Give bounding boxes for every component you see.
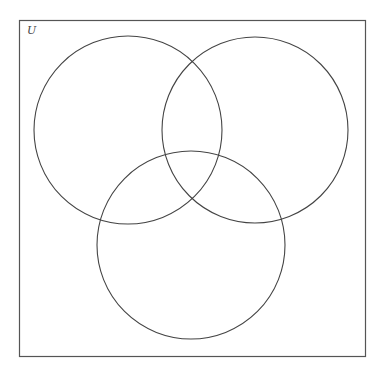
set-a-circle xyxy=(34,36,222,224)
set-c-circle xyxy=(97,151,285,339)
venn-diagram xyxy=(0,0,388,373)
set-b-circle xyxy=(162,37,348,223)
universe-label: U xyxy=(27,25,36,36)
universe-rectangle xyxy=(20,21,366,357)
